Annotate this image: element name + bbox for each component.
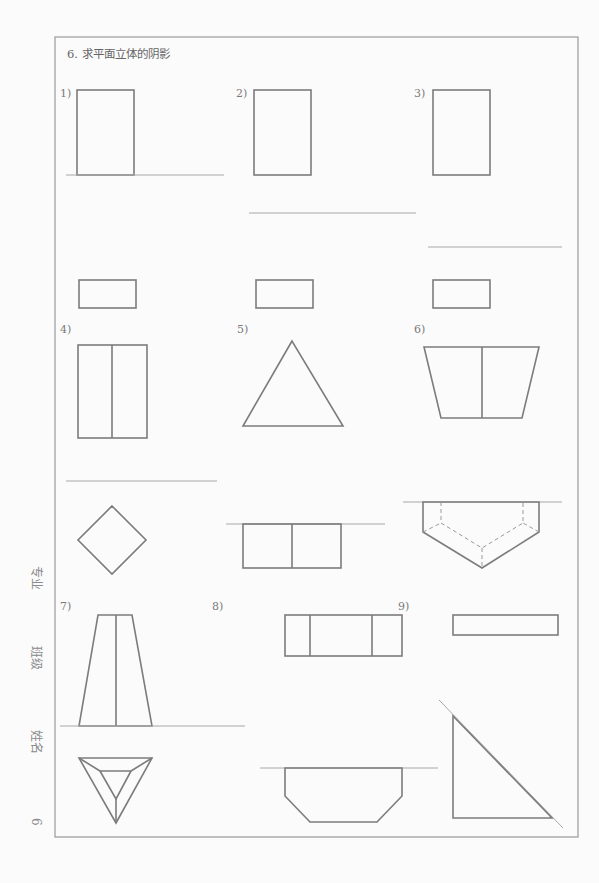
side-label-major: 专业 (29, 566, 44, 590)
top-view-rect (433, 280, 490, 308)
front-view-triangle (243, 341, 343, 426)
problem-label: 8) (212, 600, 223, 613)
side-labels: 专业 班级 姓名 6 (29, 566, 44, 826)
front-view-rect (453, 615, 558, 635)
problem-9: 9) (398, 600, 563, 828)
page-number: 6 (29, 818, 43, 826)
problem-8: 8) (212, 600, 438, 822)
front-view-rect (77, 90, 134, 175)
problem-3: 3) (414, 87, 562, 308)
worksheet-canvas: 6. 求平面立体的阴影 专业 班级 姓名 6 1) 2) 3) 4) 5) (0, 0, 599, 883)
problem-label: 2) (236, 87, 247, 100)
top-view-rect (79, 280, 136, 308)
problem-4: 4) (60, 323, 217, 574)
top-view-rect (256, 280, 313, 308)
hidden-edge (423, 523, 441, 532)
front-view-rect (254, 90, 311, 175)
problem-label: 1) (60, 87, 71, 100)
ground-line-diagonal (439, 700, 563, 828)
hidden-edge (523, 523, 539, 532)
problem-7: 7) (60, 600, 245, 823)
top-view-pentagon (423, 502, 539, 568)
problem-2: 2) (236, 87, 416, 308)
problem-label: 3) (414, 87, 425, 100)
problem-label: 7) (60, 600, 71, 613)
top-view-octagon (285, 768, 402, 822)
side-label-name: 姓名 (29, 730, 44, 754)
problem-label: 4) (60, 323, 71, 336)
top-view-triangle (453, 716, 552, 818)
problem-5: 5) (226, 323, 385, 568)
problem-label: 5) (237, 323, 248, 336)
problem-1: 1) (60, 87, 224, 308)
top-view-inner-triangle (100, 771, 131, 799)
side-label-class: 班级 (29, 646, 43, 670)
front-view-rect (285, 615, 402, 656)
problem-label: 6) (414, 323, 425, 336)
hidden-edges (441, 502, 523, 548)
problem-6: 6) (403, 323, 562, 568)
problem-label: 9) (398, 600, 409, 613)
page-title: 6. 求平面立体的阴影 (67, 47, 171, 61)
front-view-rect (433, 90, 490, 175)
top-view-diamond (78, 506, 146, 574)
